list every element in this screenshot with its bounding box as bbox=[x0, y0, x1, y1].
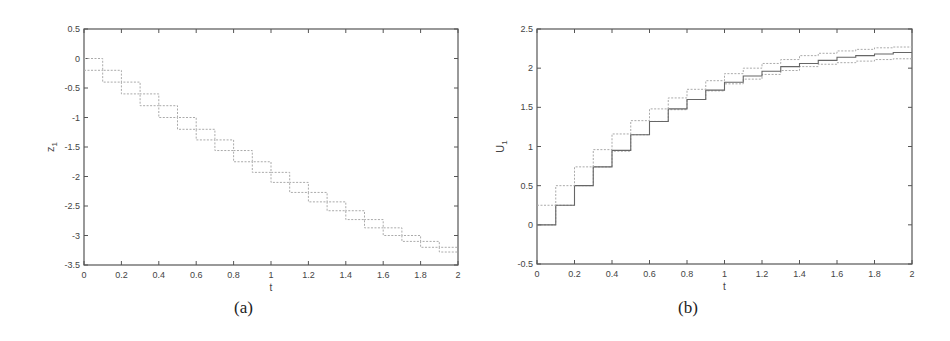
x-tick-label: 0 bbox=[534, 269, 539, 279]
y-tick-label: 0 bbox=[75, 54, 80, 64]
x-tick-label: 0.8 bbox=[681, 269, 694, 279]
x-tick-label: 0 bbox=[81, 270, 86, 280]
x-tick-label: 1.2 bbox=[302, 270, 315, 280]
x-tick-label: 2 bbox=[455, 270, 460, 280]
y-tick-label: -2 bbox=[72, 172, 80, 182]
plot-frame bbox=[537, 29, 912, 264]
y-tick-label: 1 bbox=[528, 142, 533, 152]
x-tick-label: 0.4 bbox=[153, 270, 166, 280]
plot-frame bbox=[84, 29, 458, 265]
y-tick-label: 2.5 bbox=[520, 24, 533, 34]
x-tick-label: 1.8 bbox=[868, 269, 881, 279]
chart-b-plot: 00.20.40.60.811.21.41.61.822.521.510.50-… bbox=[470, 0, 950, 341]
y-tick-label: 0 bbox=[528, 220, 533, 230]
series-lower-bound bbox=[84, 70, 458, 252]
y-tick-label: 1.5 bbox=[520, 102, 533, 112]
figure-b: 00.20.40.60.811.21.41.61.822.521.510.50-… bbox=[470, 0, 950, 341]
x-tick-label: 2 bbox=[909, 269, 914, 279]
figure-a: 00.20.40.60.811.21.41.61.820.50-0.5-1-1.… bbox=[0, 0, 470, 341]
x-tick-label: 0.2 bbox=[115, 270, 128, 280]
series-upper-bound bbox=[84, 59, 458, 248]
x-tick-label: 0.6 bbox=[190, 270, 203, 280]
y-tick-label: -0.5 bbox=[517, 259, 533, 269]
y-tick-label: 2 bbox=[528, 63, 533, 73]
svg-text:z1: z1 bbox=[44, 141, 59, 152]
x-tick-label: 1.6 bbox=[377, 270, 390, 280]
y-tick-label: 0.5 bbox=[67, 24, 80, 34]
y-tick-label: 0.5 bbox=[520, 181, 533, 191]
y-tick-label: -0.5 bbox=[64, 83, 80, 93]
x-tick-label: 0.8 bbox=[227, 270, 240, 280]
x-tick-label: 0.6 bbox=[643, 269, 656, 279]
x-tick-label: 0.4 bbox=[606, 269, 619, 279]
x-tick-label: 1.6 bbox=[831, 269, 844, 279]
y-tick-label: -3 bbox=[72, 231, 80, 241]
caption-a: (a) bbox=[234, 298, 253, 318]
svg-text:U1: U1 bbox=[494, 140, 509, 153]
x-tick-label: 1.4 bbox=[340, 270, 353, 280]
x-tick-label: 1.8 bbox=[414, 270, 427, 280]
x-axis-label: t bbox=[723, 281, 726, 292]
y-tick-label: -3.5 bbox=[64, 260, 80, 270]
x-tick-label: 0.2 bbox=[568, 269, 581, 279]
x-tick-label: 1.2 bbox=[756, 269, 769, 279]
x-axis-label: t bbox=[270, 282, 273, 293]
x-tick-label: 1 bbox=[722, 269, 727, 279]
chart-a-plot: 00.20.40.60.811.21.41.61.820.50-0.5-1-1.… bbox=[0, 0, 470, 341]
y-tick-label: -1.5 bbox=[64, 142, 80, 152]
y-tick-label: -1 bbox=[72, 113, 80, 123]
series-nominal bbox=[537, 53, 912, 225]
y-tick-label: -2.5 bbox=[64, 201, 80, 211]
x-tick-label: 1 bbox=[268, 270, 273, 280]
x-tick-label: 1.4 bbox=[793, 269, 806, 279]
y-axis-label: U1 bbox=[494, 140, 509, 153]
y-axis-label: z1 bbox=[44, 141, 59, 152]
caption-b: (b) bbox=[678, 298, 698, 318]
